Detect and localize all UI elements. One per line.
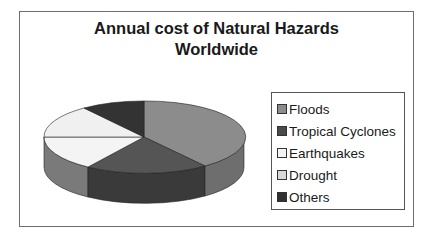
legend-swatch-tropical-cyclones	[277, 126, 287, 136]
legend-label: Drought	[289, 168, 337, 183]
legend-item-floods: Floods	[272, 98, 404, 120]
legend-label: Earthquakes	[289, 146, 365, 161]
legend-swatch-earthquakes	[277, 148, 287, 158]
chart-title-line-1: Annual cost of Natural Hazards	[19, 18, 414, 39]
legend-swatch-floods	[277, 104, 287, 114]
legend-swatch-drought	[277, 170, 287, 180]
legend-swatch-others	[277, 192, 287, 202]
chart-title: Annual cost of Natural Hazards Worldwide	[19, 18, 414, 60]
legend-label: Tropical Cyclones	[289, 124, 396, 139]
chart-title-line-2: Worldwide	[19, 39, 414, 60]
chart-legend: Floods Tropical Cyclones Earthquakes Dro…	[271, 92, 405, 210]
pie-chart-3d	[30, 95, 260, 205]
legend-label: Floods	[289, 102, 330, 117]
legend-item-earthquakes: Earthquakes	[272, 142, 404, 164]
legend-item-others: Others	[272, 186, 404, 208]
legend-label: Others	[289, 190, 330, 205]
legend-item-drought: Drought	[272, 164, 404, 186]
legend-item-tropical-cyclones: Tropical Cyclones	[272, 120, 404, 142]
pie-top	[44, 101, 246, 173]
